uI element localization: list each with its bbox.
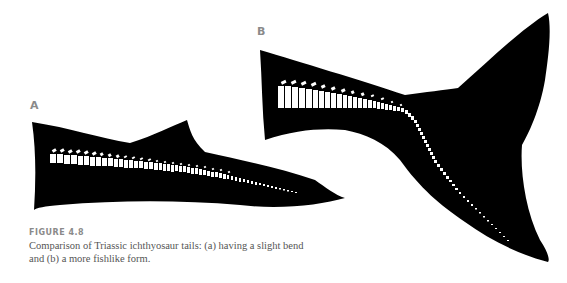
tail-a-illustration [32,120,345,210]
tail-b-illustration [260,13,550,262]
figure-caption-text: Comparison of Triassic ichthyosaur tails… [29,239,319,265]
figure-number: FIGURE 4.8 [29,228,319,237]
figure-caption: FIGURE 4.8 Comparison of Triassic ichthy… [29,228,319,265]
